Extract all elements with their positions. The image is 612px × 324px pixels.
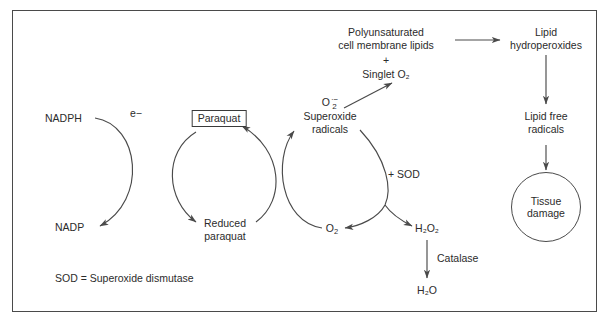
label-catalase: Catalase (437, 252, 478, 265)
node-polyunsaturated-lipids: Polyunsaturated cell membrane lipids (338, 26, 434, 51)
pufa-line-1: Polyunsaturated (348, 26, 424, 38)
oxygen-subscript: 2 (334, 227, 338, 236)
hydroperoxides-line-2: hydroperoxides (510, 39, 582, 51)
node-singlet-oxygen: Singlet O₂ (362, 68, 409, 81)
node-lipid-hydroperoxides: Lipid hydroperoxides (510, 26, 582, 51)
node-water: H₂O (417, 284, 437, 297)
reduced-paraquat-line-2: paraquat (204, 230, 245, 242)
tissue-damage-text: Tissue damage (527, 195, 565, 220)
node-oxygen: O2 (326, 222, 338, 238)
node-tissue-damage: Tissue damage (511, 172, 581, 242)
tissue-damage-line-2: damage (527, 207, 565, 219)
diagram-frame-border (12, 10, 597, 312)
label-plus-sign: + (383, 54, 389, 67)
node-nadph: NADPH (45, 112, 82, 125)
free-radicals-line-2: radicals (528, 123, 564, 135)
free-radicals-line-1: Lipid free (524, 110, 567, 122)
oxygen-base: O (326, 222, 334, 234)
legend-sod-definition: SOD = Superoxide dismutase (55, 272, 194, 284)
node-hydrogen-peroxide: H₂O₂ (415, 222, 439, 235)
label-sod-branch: + SOD (388, 168, 420, 181)
hydroperoxides-line-1: Lipid (535, 26, 557, 38)
superoxide-subscript: 2 (332, 103, 336, 111)
superoxide-line-2: radicals (312, 123, 348, 135)
tissue-damage-line-1: Tissue (531, 195, 562, 207)
diagram-canvas: NADPH e− NADP Paraquat Reduced paraquat … (0, 0, 612, 324)
node-lipid-free-radicals: Lipid free radicals (524, 110, 567, 135)
node-nadp: NADP (55, 221, 84, 234)
node-reduced-paraquat: Reduced paraquat (204, 217, 246, 242)
superoxide-base: O (322, 96, 330, 108)
superoxide-formula: O·−2 (322, 96, 339, 108)
node-superoxide-radicals: O·−2 Superoxide radicals (303, 96, 356, 135)
label-electron: e− (130, 107, 142, 120)
superoxide-charge-stack: ·−2 (331, 97, 338, 111)
pufa-line-2: cell membrane lipids (338, 39, 434, 51)
superoxide-line-1: Superoxide (303, 110, 356, 122)
reduced-paraquat-line-1: Reduced (204, 217, 246, 229)
node-paraquat: Paraquat (192, 110, 247, 127)
